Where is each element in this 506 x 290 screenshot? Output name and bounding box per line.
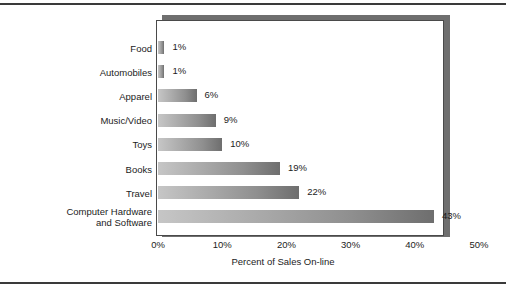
x-tick-label: 50% [469,239,488,250]
bar-value-label: 10% [230,137,249,151]
x-tick-label: 0% [151,239,165,250]
x-axis-title-text: Percent of Sales On-line [232,256,335,267]
bar [158,89,197,102]
bar-value-label: 1% [172,64,186,78]
bar [158,162,280,175]
bar-series: 1%1%6%9%10%19%22%43% [158,22,479,234]
category-label: Books [2,164,152,175]
x-tick-label: 10% [213,239,232,250]
bar [158,114,216,127]
page-rule-bottom [0,282,506,284]
x-tick-label: 30% [341,239,360,250]
bar [158,41,164,54]
category-label: Automobiles [2,67,152,78]
category-label: Food [2,43,152,54]
category-label: Apparel [2,91,152,102]
category-label: Toys [2,139,152,150]
x-axis-title: Percent of Sales On-line [0,256,506,267]
bar-value-label: 19% [288,161,307,175]
bar-value-label: 43% [442,209,461,223]
bar-value-label: 1% [172,40,186,54]
category-label: Music/Video [2,115,152,126]
category-label: Computer Hardware and Software [2,206,152,228]
x-tick-label: 20% [277,239,296,250]
chart-figure: FoodAutomobilesApparelMusic/VideoToysBoo… [0,0,506,290]
bar-value-label: 9% [224,113,238,127]
bar [158,186,299,199]
x-tick-label: 40% [405,239,424,250]
category-label: Travel [2,188,152,199]
bar [158,210,434,223]
bar [158,65,164,78]
x-axis-ticks: 0%10%20%30%40%50% [0,239,506,253]
bar [158,138,222,151]
bar-value-label: 22% [307,185,326,199]
category-axis-labels: FoodAutomobilesApparelMusic/VideoToysBoo… [0,22,152,234]
plot-area: 1%1%6%9%10%19%22%43% [158,22,479,234]
page-rule-top [0,3,506,5]
bar-value-label: 6% [205,88,219,102]
